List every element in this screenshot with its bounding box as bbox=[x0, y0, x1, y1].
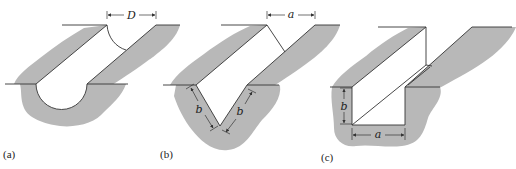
panel-a-circular-channel: D bbox=[5, 9, 180, 126]
ground-b-left-band bbox=[170, 25, 267, 85]
dimension-label-b-left: b bbox=[195, 103, 202, 116]
ground-c-left-band bbox=[332, 27, 426, 87]
caption-a: (a) bbox=[3, 148, 15, 160]
ground-c-right-band bbox=[405, 27, 516, 90]
dimension-label-a-top: a bbox=[288, 8, 295, 21]
ground-a-left-band bbox=[14, 25, 107, 84]
dimension-label-D: D bbox=[126, 9, 136, 22]
ground-c-bottom bbox=[331, 87, 440, 147]
dimension-label-b-right: b bbox=[236, 105, 243, 118]
caption-c: (c) bbox=[321, 151, 333, 163]
channel-cross-sections-figure: D a b b bbox=[0, 0, 516, 169]
caption-b: (b) bbox=[160, 148, 173, 160]
ground-b-right-band bbox=[247, 25, 340, 88]
dimension-label-b: b bbox=[340, 100, 347, 113]
panel-c-rectangular-channel: b a bbox=[330, 27, 516, 147]
panel-b-triangular-channel: a b b bbox=[163, 8, 340, 150]
ground-b-bottom bbox=[174, 85, 280, 150]
ground-a-right-band bbox=[87, 25, 180, 86]
dimension-label-a-bottom: a bbox=[375, 128, 382, 141]
